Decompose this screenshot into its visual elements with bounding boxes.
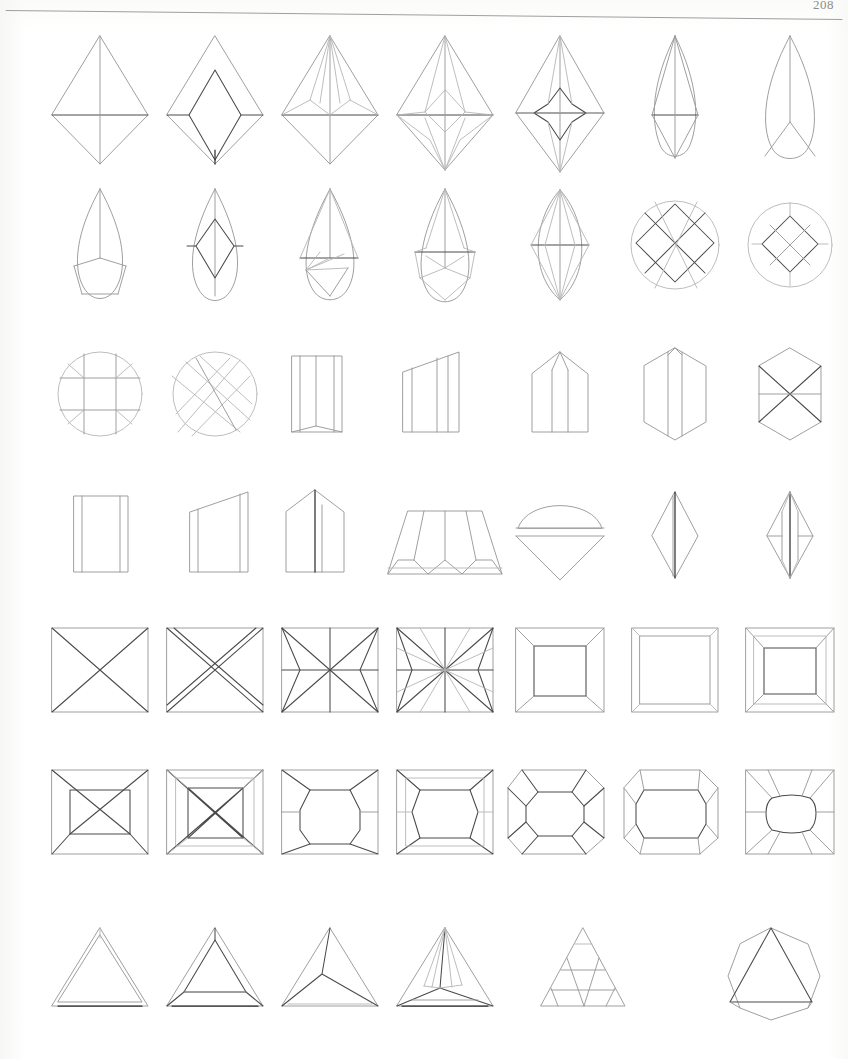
figure-trapezoid-sloped-top: [190, 492, 248, 572]
figure-square-shallow-step: [632, 628, 718, 712]
figure-trapezoid-right-angled: [403, 352, 459, 432]
gem-cut-diagram-grid: [0, 0, 848, 1059]
figure-square-four-point-star: [282, 628, 378, 712]
figure-pentagon-house-cut: [532, 352, 588, 432]
figure-triangle-lattice-hatch: [541, 928, 625, 1006]
figure-hexagon-six-triangle: [759, 348, 821, 440]
figure-trapezoid-scalloped-base: [388, 511, 502, 574]
figure-square-inner-square-x: [52, 770, 148, 854]
figure-kite-brilliant-split: [282, 36, 378, 164]
figure-square-double-x: [167, 628, 263, 712]
figure-octagon-triangle-table: [728, 928, 820, 1020]
figure-square-step-cut-deep: [746, 628, 834, 712]
figure-triangle-plain-bevel: [52, 928, 148, 1006]
figure-princess-cut-double: [397, 770, 493, 854]
figure-half-round-cone: [516, 506, 604, 581]
figure-hexagon-vertical-ridge: [644, 348, 706, 440]
figure-pear-outline-three-facet: [765, 36, 815, 159]
figure-square-x-diagonals: [52, 628, 148, 712]
figure-triangle-y-facets: [282, 928, 378, 1006]
figure-princess-cut-crossed: [167, 770, 263, 854]
figure-round-lattice-large: [631, 201, 719, 289]
figure-cushion-step-cut: [624, 770, 718, 854]
figure-cushion-octagon-table: [508, 770, 604, 854]
figure-square-step-cut: [516, 628, 604, 712]
figure-square-octagon-table: [282, 770, 378, 854]
figure-pear-step-cut-lozenge: [187, 189, 243, 301]
figure-kite-brilliant-four-point-star: [516, 36, 604, 172]
figure-square-radiating-oval: [746, 770, 834, 854]
figure-pear-rose-cut: [74, 189, 126, 299]
figure-square-eight-point-star: [397, 628, 493, 712]
figure-kite-step-cut: [167, 36, 263, 164]
figure-kite-brilliant-plain: [52, 36, 148, 164]
figure-round-cross-bands: [58, 352, 142, 436]
figure-round-diagonal-hatch: [172, 352, 257, 436]
figure-narrow-kite-faceted: [767, 492, 813, 578]
figure-pear-brilliant-fan: [300, 189, 358, 300]
figure-trilliant-fan-facets: [397, 928, 493, 1006]
figure-rectangle-beveled-upright: [292, 356, 342, 432]
figure-pear-brilliant-simple: [652, 36, 698, 158]
figure-round-lattice-small: [748, 203, 832, 287]
figure-pentagon-gable-cut: [286, 490, 344, 572]
figure-narrow-kite-plain: [652, 492, 698, 578]
document-page: 208: [0, 0, 848, 1059]
figure-kite-brilliant-starred: [397, 36, 493, 170]
figure-trilliant-three-facet: [167, 928, 263, 1006]
figure-rectangle-plain-bevel: [74, 496, 128, 572]
figure-pear-brilliant-star: [415, 189, 475, 302]
figure-marquise-brilliant-star: [531, 190, 589, 300]
